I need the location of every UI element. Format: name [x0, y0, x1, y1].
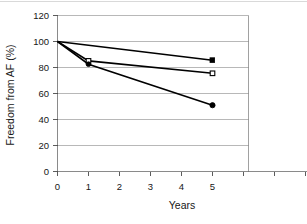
x-tick-label-2: 2	[117, 181, 122, 192]
y-tick-label-60: 60	[38, 88, 49, 99]
series-3-marker-year1	[86, 62, 91, 67]
freedom-from-af-line-chart: 120 100 80 60 40 20 0 0 1 2 3 4 5 Years …	[0, 0, 307, 224]
y-tick-label-120: 120	[33, 10, 49, 21]
y-axis-title: Freedom from AF (%)	[4, 45, 16, 146]
x-axis-title: Years	[169, 199, 195, 211]
series-1-marker-year5	[210, 58, 215, 63]
chart-background	[0, 0, 307, 224]
y-tick-label-40: 40	[38, 114, 49, 125]
y-tick-label-80: 80	[38, 62, 49, 73]
x-tick-label-1: 1	[86, 181, 91, 192]
x-tick-label-5: 5	[210, 181, 215, 192]
y-tick-label-0: 0	[44, 166, 49, 177]
x-tick-label-3: 3	[148, 181, 153, 192]
series-2-marker-year5	[210, 71, 215, 76]
series-3-marker-year5	[210, 103, 215, 108]
x-tick-label-0: 0	[55, 181, 60, 192]
y-tick-label-20: 20	[38, 140, 49, 151]
chart-container: 120 100 80 60 40 20 0 0 1 2 3 4 5 Years …	[0, 0, 307, 224]
x-tick-label-4: 4	[179, 181, 184, 192]
y-tick-label-100: 100	[33, 36, 49, 47]
